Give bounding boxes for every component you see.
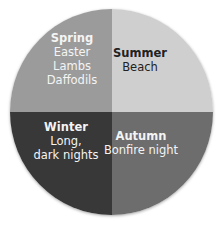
autumn-label: Autumn Bonfire night [104,129,178,157]
winter-item: Long, [34,134,99,148]
spring-item: Lambs [47,59,98,73]
spring-label: Spring Easter Lambs Daffodils [47,31,98,87]
seasons-circle [10,9,213,215]
winter-item: dark nights [34,148,99,162]
summer-label: Summer Beach [113,46,167,74]
summer-title: Summer [113,46,167,60]
spring-title: Spring [47,31,98,45]
autumn-item: Bonfire night [104,143,178,157]
spring-item: Daffodils [47,73,98,87]
quadrant-autumn [112,112,214,215]
winter-title: Winter [34,120,99,134]
summer-item: Beach [113,60,167,74]
autumn-title: Autumn [104,129,178,143]
spring-item: Easter [47,45,98,59]
winter-label: Winter Long, dark nights [34,120,99,162]
